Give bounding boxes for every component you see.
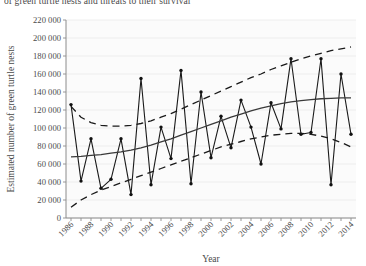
x-tick-label: 1994 bbox=[136, 219, 156, 239]
y-tick-label: 0 bbox=[57, 213, 61, 223]
x-tick-label: 2006 bbox=[256, 219, 276, 239]
data-point bbox=[289, 57, 292, 60]
data-point bbox=[79, 179, 82, 182]
data-point bbox=[129, 193, 132, 196]
x-tick-label: 2000 bbox=[196, 219, 215, 238]
x-tick-label: 2014 bbox=[336, 219, 356, 239]
chart-svg: 020 00040 00060 00080 000100 000120 0001… bbox=[0, 0, 366, 266]
x-axis-label: Year bbox=[202, 254, 220, 264]
y-tick-label: 160 000 bbox=[33, 69, 61, 79]
data-point bbox=[349, 133, 352, 136]
y-tick-label: 80 000 bbox=[37, 141, 61, 151]
x-tick-label: 2012 bbox=[316, 219, 335, 238]
y-tick-label: 220 000 bbox=[33, 15, 61, 25]
y-tick-label: 100 000 bbox=[33, 123, 61, 133]
data-point bbox=[229, 146, 232, 149]
data-point bbox=[159, 125, 162, 128]
data-point bbox=[199, 90, 202, 93]
x-tick-label: 2010 bbox=[296, 219, 315, 238]
y-tick-label: 40 000 bbox=[37, 177, 61, 187]
x-axis: 1986198819901992199419961998200020022004… bbox=[56, 218, 356, 239]
data-point bbox=[169, 157, 172, 160]
data-point bbox=[269, 101, 272, 104]
data-point bbox=[279, 127, 282, 130]
x-tick-label: 2002 bbox=[216, 219, 235, 238]
data-point bbox=[89, 137, 92, 140]
y-tick-label: 140 000 bbox=[33, 87, 61, 97]
data-point bbox=[259, 162, 262, 165]
data-point bbox=[139, 77, 142, 80]
data-point bbox=[249, 125, 252, 128]
x-tick-label: 1990 bbox=[96, 219, 115, 238]
data-point bbox=[109, 178, 112, 181]
y-axis: 020 00040 00060 00080 000100 000120 0001… bbox=[33, 15, 66, 223]
y-tick-label: 200 000 bbox=[33, 33, 61, 43]
data-point bbox=[329, 183, 332, 186]
data-point bbox=[319, 57, 322, 60]
y-tick-label: 120 000 bbox=[33, 105, 61, 115]
data-point bbox=[209, 156, 212, 159]
data-point bbox=[149, 183, 152, 186]
data-point bbox=[219, 115, 222, 118]
data-point bbox=[119, 137, 122, 140]
data-point bbox=[179, 69, 182, 72]
x-tick-label: 1998 bbox=[176, 219, 195, 238]
data-point bbox=[189, 182, 192, 185]
data-point bbox=[239, 98, 242, 101]
y-tick-label: 60 000 bbox=[37, 159, 61, 169]
x-tick-label: 2004 bbox=[236, 219, 256, 239]
turtle-nests-chart: of green turtle nests and threats to the… bbox=[0, 0, 366, 266]
y-tick-label: 20 000 bbox=[37, 195, 61, 205]
x-tick-label: 1988 bbox=[76, 219, 95, 238]
x-tick-label: 1996 bbox=[156, 219, 176, 239]
data-point bbox=[69, 103, 72, 106]
y-tick-label: 180 000 bbox=[33, 51, 61, 61]
y-axis-label: Estimated number of green turtle nests bbox=[6, 45, 16, 192]
data-point bbox=[339, 72, 342, 75]
x-tick-label: 1992 bbox=[116, 219, 135, 238]
data-point bbox=[99, 187, 102, 190]
x-tick-label: 2008 bbox=[276, 219, 295, 238]
